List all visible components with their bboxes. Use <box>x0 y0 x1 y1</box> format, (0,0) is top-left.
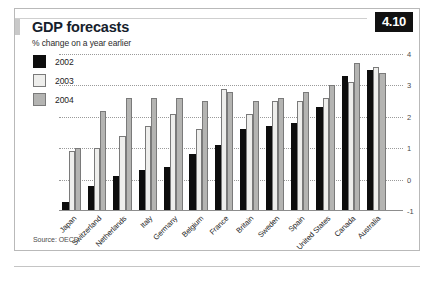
x-axis-label-cell: Netherlands <box>110 212 135 252</box>
bar-group <box>262 54 287 211</box>
bar-group <box>110 54 135 211</box>
bar <box>329 85 335 211</box>
page-bottom-rule <box>14 266 420 267</box>
bar <box>151 98 157 211</box>
y-axis-tick-label: 4 <box>407 50 411 59</box>
x-axis-tick-label: Britain <box>235 214 256 235</box>
bar-group <box>161 54 186 211</box>
x-axis-tick-label: Spain <box>287 214 307 234</box>
x-axis-labels: JapanSwitzerlandNetherlandsItalyGermanyB… <box>59 212 389 252</box>
chart-subtitle: % change on a year earlier <box>32 37 332 49</box>
x-axis-tick-label: Japan <box>57 214 78 235</box>
bar <box>227 92 233 211</box>
heading-block: GDP forecasts % change on a year earlier <box>32 19 332 49</box>
legend-swatch-icon <box>33 55 46 68</box>
title-accent-rule <box>15 18 20 35</box>
bar-group <box>59 54 84 211</box>
bar <box>253 101 259 211</box>
y-axis-tick-label: -1 <box>407 207 414 216</box>
legend-swatch-icon <box>33 93 46 106</box>
plot-area: 43210-1 <box>59 54 389 211</box>
bar-group <box>338 54 363 211</box>
chart-title: GDP forecasts <box>32 19 332 36</box>
y-axis-tick-label: 1 <box>407 144 411 153</box>
x-axis-label-cell: Sweden <box>262 212 287 252</box>
bar-group <box>364 54 389 211</box>
bar-group <box>313 54 338 211</box>
x-axis-label-cell: France <box>211 212 236 252</box>
chart-page: GDP forecasts % change on a year earlier… <box>0 0 434 282</box>
x-axis-tick-label: Italy <box>138 214 154 230</box>
bar-group <box>288 54 313 211</box>
y-axis-tick-label: 2 <box>407 112 411 121</box>
bar <box>303 92 309 211</box>
y-axis-tick-label: 3 <box>407 81 411 90</box>
figure-panel: GDP forecasts % change on a year earlier… <box>14 8 420 251</box>
figure-number-badge: 4.10 <box>375 12 413 32</box>
bar <box>202 101 208 211</box>
bar-group <box>186 54 211 211</box>
y-axis-tick-label: 0 <box>407 175 411 184</box>
bar-groups <box>59 54 389 211</box>
x-axis-label-cell: Belgium <box>186 212 211 252</box>
bar <box>126 98 132 211</box>
legend-swatch-icon <box>33 74 46 87</box>
x-axis-tick-label: France <box>208 214 231 237</box>
bar <box>75 148 81 211</box>
bar <box>176 98 182 211</box>
source-note: Source: OECD <box>33 236 79 243</box>
bar-group <box>237 54 262 211</box>
bar <box>100 111 106 211</box>
bar-group <box>84 54 109 211</box>
bar-group <box>211 54 236 211</box>
x-axis-label-cell: Australia <box>364 212 389 252</box>
bar <box>278 98 284 211</box>
bar <box>354 63 360 211</box>
bar-group <box>135 54 160 211</box>
bar <box>379 73 385 211</box>
x-axis-line <box>59 210 403 211</box>
